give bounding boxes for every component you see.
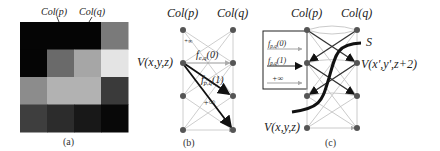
grid-cell: [47, 105, 75, 133]
col-q-label-a: Col(q): [79, 6, 106, 18]
cut-curve-s: [292, 43, 361, 112]
grid-cell: [101, 22, 129, 50]
grid-cell: [47, 77, 75, 105]
col-q-label-c: Col(q): [341, 6, 372, 20]
grid-cell: [74, 22, 102, 50]
node-label-vxyz2: V(x',y',z+2): [361, 57, 417, 71]
grid-cell: [74, 105, 102, 133]
figure-canvas: Col(p) Col(q) (a) Col(p) Col(q) fe,q(0): [0, 0, 440, 151]
grid-cell: [20, 105, 48, 133]
caption-b: (b): [183, 137, 195, 149]
edge-inf-b: [184, 65, 231, 127]
grid-cell: [74, 77, 102, 105]
intensity-grid: [20, 22, 129, 133]
grid-cell: [20, 77, 48, 105]
panel-c: Col(p) Col(q) fp,q(0) fp,q(1) +∞: [263, 6, 417, 149]
col-p-label-c: Col(p): [291, 6, 322, 20]
col-p-label-a: Col(p): [41, 6, 68, 18]
grid-cell: [74, 50, 102, 78]
node-label-vxyz-c: V(x,y,z): [264, 120, 300, 134]
panel-b: Col(p) Col(q) fe,q(0) fp,q(1) +∞ +∞: [137, 6, 248, 149]
edge-label-small-inf: +∞: [184, 38, 193, 44]
light-edges-c: [307, 26, 357, 128]
legend-label-f1: fp,q(1): [268, 56, 286, 66]
panel-a: Col(p) Col(q) (a): [20, 6, 129, 148]
grid-cell: [101, 50, 129, 78]
col-p-pointer: [57, 17, 59, 22]
col-q-pointer: [89, 17, 92, 22]
legend-label-inf: +∞: [272, 74, 283, 83]
cut-label-s: S: [366, 35, 372, 49]
grid-cell: [101, 77, 129, 105]
edge-label-f1: fp,q(1): [201, 74, 224, 86]
grid-cell: [20, 50, 48, 78]
legend-label-f0: fp,q(0): [268, 39, 286, 49]
node-label-vxyz-b: V(x,y,z): [137, 55, 173, 69]
caption-c: (c): [325, 137, 336, 149]
grid-cell: [47, 22, 75, 50]
col-q-label-b: Col(q): [217, 6, 248, 20]
edge-label-inf: +∞: [203, 97, 216, 107]
grid-cell: [20, 22, 48, 50]
caption-a: (a): [63, 136, 74, 148]
grid-cell: [47, 50, 75, 78]
grid-cell: [101, 105, 129, 133]
edge-label-f0: fe,q(0): [196, 49, 219, 61]
col-p-label-b: Col(p): [167, 6, 198, 20]
